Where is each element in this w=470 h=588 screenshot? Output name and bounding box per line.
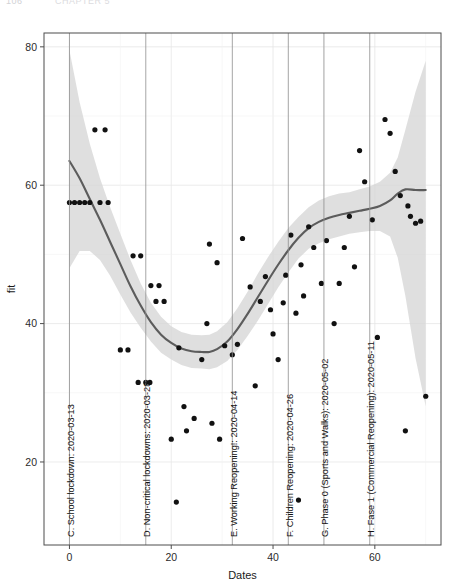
x-tick-label: 40 <box>267 551 279 563</box>
x-tick-label: 20 <box>165 551 177 563</box>
y-tick-label: 60 <box>25 179 37 191</box>
plot-svg: C. School lockdown: 2020-03-13D. Non-cri… <box>0 0 470 588</box>
x-tick-label: 0 <box>67 551 73 563</box>
y-tick-label: 80 <box>25 41 37 53</box>
x-tick-label: 60 <box>369 551 381 563</box>
y-axis-title: fit <box>5 285 17 294</box>
reference-line-label-D: D. Non-critical lockdowns: 2020-03-28 <box>142 382 152 537</box>
reference-line-label-E: E. Working Reopening!: 2020-04-14 <box>229 391 239 537</box>
reference-line-label-C: C. School lockdown: 2020-03-13 <box>66 404 76 537</box>
reference-line-label-G: G. Phase 0 (Sports and Walks): 2020-05-0… <box>320 359 330 537</box>
reference-line-label-F: F. Children Reopening: 2020-04-26 <box>285 394 295 537</box>
y-tick-label: 40 <box>25 317 37 329</box>
grid-layer <box>44 33 441 545</box>
x-axis-title: Dates <box>228 569 257 581</box>
scatter-plot-figure: C. School lockdown: 2020-03-13D. Non-cri… <box>0 0 470 588</box>
reference-line-label-H: H. Fase 1 (Commercial Reopening): 2020-0… <box>366 341 376 537</box>
figure-page: 106 CHAPTER 5 C. School lockdown: 2020-0… <box>0 0 470 588</box>
y-tick-label: 20 <box>25 456 37 468</box>
